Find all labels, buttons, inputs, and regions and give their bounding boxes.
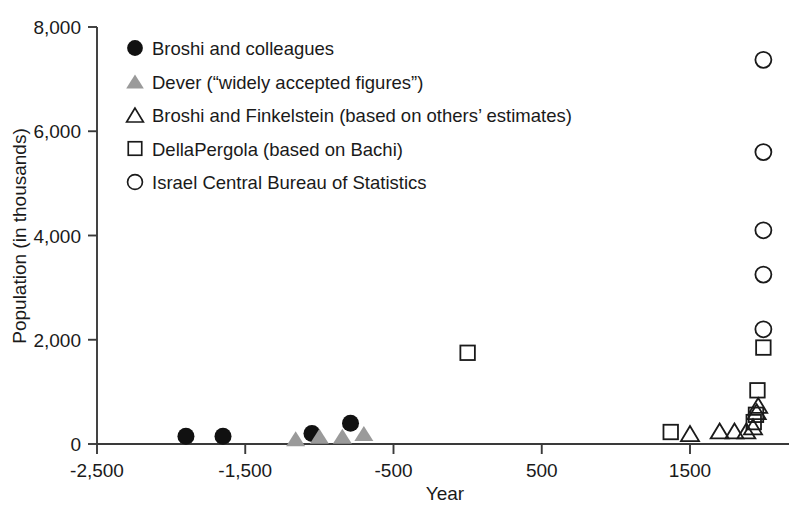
legend-label: Broshi and Finkelstein (based on others’… [152,105,572,126]
x-tick-label: 500 [526,460,558,481]
y-tick-label: 8,000 [33,17,81,38]
legend-label: Broshi and colleagues [152,38,334,59]
legend-label: DellaPergola (based on Bachi) [152,139,403,160]
marker-filled-circle [215,428,232,445]
y-tick-label: 6,000 [33,121,81,142]
x-tick-label: -1,500 [218,460,272,481]
y-tick-label: 0 [70,434,81,455]
marker-filled-circle [177,428,194,445]
chart-canvas: 02,0004,0006,0008,000 -2,500-1,500-50050… [0,0,794,512]
x-tick-label: 1500 [669,460,711,481]
y-tick-label: 4,000 [33,226,81,247]
legend-label: Israel Central Bureau of Statistics [152,172,427,193]
x-tick-label: -500 [374,460,412,481]
y-axis-title: Population (in thousands) [9,128,30,343]
population-scatter-chart: 02,0004,0006,0008,000 -2,500-1,500-50050… [0,0,794,512]
x-tick-label: -2,500 [70,460,124,481]
legend-label: Dever (“widely accepted figures”) [152,72,423,93]
y-tick-label: 2,000 [33,330,81,351]
marker-filled-circle [342,415,359,432]
x-axis-title: Year [426,483,465,504]
legend-marker-filled-circle [127,40,143,56]
